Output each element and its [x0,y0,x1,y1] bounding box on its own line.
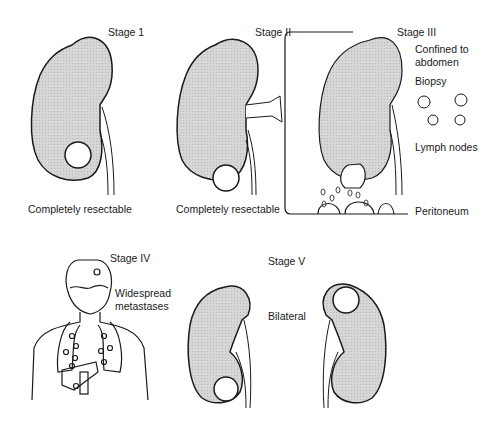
stage3-note-abdomen: abdomen [415,56,459,68]
stage2-title: Stage II [255,26,291,38]
stage4-body [32,260,148,400]
stage5-left-kidney [188,286,251,408]
stage5-note-bilateral: Bilateral [268,310,306,322]
stage4-note-metastases: metastases [115,300,169,312]
stage3-note-biopsy: Biopsy [415,75,447,87]
stage1-title: Stage 1 [108,26,144,38]
stage4-note-widespread: Widespread [115,287,171,299]
lymph-node-icons [418,94,467,125]
stage5-right-kidney [323,284,386,408]
stage5-title: Stage V [268,255,305,267]
stage2-caption: Completely resectable [176,203,280,215]
stage3-note-confined: Confined to [415,43,469,55]
stage3-note-lymph-nodes: Lymph nodes [415,141,478,153]
stage1-kidney [31,38,114,195]
stage1-caption: Completely resectable [28,203,132,215]
stage3-title: Stage III [397,26,436,38]
stage3-kidney [285,32,408,214]
stage2-kidney [177,39,282,195]
stage4-title: Stage IV [110,252,150,264]
stage3-note-peritoneum: Peritoneum [415,205,469,217]
